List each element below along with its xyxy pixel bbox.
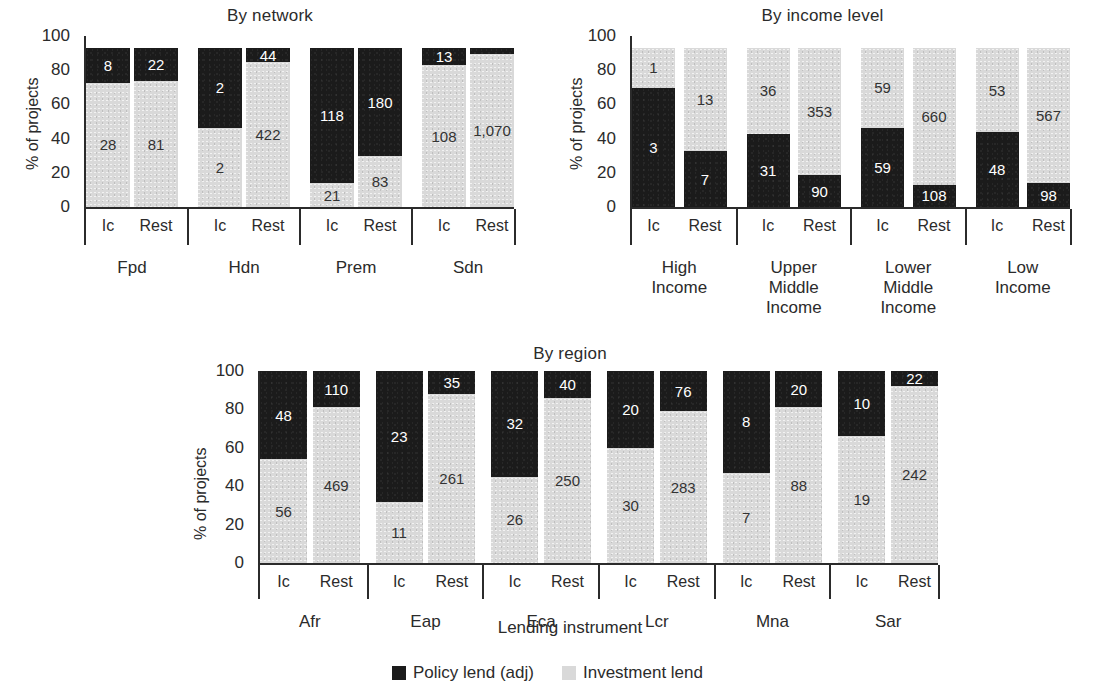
segment-investment-lend[interactable]: 28 — [86, 83, 130, 207]
stacked-bar[interactable]: 2281 — [134, 48, 178, 207]
segment-policy-lend[interactable]: 22 — [891, 371, 938, 386]
segment-policy-lend[interactable]: 32 — [491, 371, 538, 477]
stacked-bar[interactable]: 5348 — [976, 48, 1019, 207]
bar-value-label: 36 — [760, 83, 777, 98]
segment-policy-lend[interactable]: 10 — [838, 371, 885, 436]
x-group-label: Fpd — [86, 258, 178, 278]
segment-policy-lend[interactable]: 108 — [913, 185, 956, 207]
stacked-bar[interactable]: 11821 — [310, 48, 354, 207]
legend-item[interactable]: Investment lend — [562, 663, 703, 683]
segment-policy-lend[interactable]: 40 — [544, 371, 591, 398]
segment-investment-lend[interactable]: 250 — [544, 398, 591, 563]
stacked-bar[interactable]: 1,070 — [470, 48, 514, 207]
stacked-bar[interactable]: 660108 — [913, 48, 956, 207]
segment-policy-lend[interactable]: 98 — [1027, 183, 1070, 207]
segment-investment-lend[interactable]: 2 — [198, 128, 242, 208]
segment-investment-lend[interactable]: 469 — [313, 407, 360, 563]
group-separator — [829, 565, 831, 599]
x-group-label: Hdn — [198, 258, 290, 278]
segment-investment-lend[interactable]: 283 — [660, 411, 707, 563]
bars-container-by-region: 4856110469231135261322640250203076283872… — [260, 371, 938, 563]
stacked-bar[interactable]: 137 — [684, 48, 727, 207]
segment-policy-lend[interactable]: 35 — [428, 371, 475, 394]
stacked-bar[interactable]: 44422 — [246, 48, 290, 207]
segment-policy-lend[interactable]: 48 — [260, 371, 307, 459]
segment-investment-lend[interactable]: 242 — [891, 386, 938, 563]
segment-investment-lend[interactable]: 108 — [422, 65, 466, 207]
bar-value-label: 108 — [431, 129, 456, 144]
segment-investment-lend[interactable]: 261 — [428, 394, 475, 563]
segment-investment-lend[interactable]: 59 — [861, 48, 904, 128]
segment-investment-lend[interactable]: 1 — [632, 48, 675, 88]
segment-investment-lend[interactable]: 81 — [134, 81, 178, 207]
x-tick-label-ic: Ic — [422, 217, 466, 235]
segment-policy-lend[interactable]: 59 — [861, 128, 904, 208]
segment-investment-lend[interactable]: 83 — [358, 156, 402, 207]
segment-investment-lend[interactable]: 26 — [491, 477, 538, 563]
segment-policy-lend[interactable]: 44 — [246, 48, 290, 62]
stacked-bar[interactable]: 3226 — [491, 371, 538, 563]
stacked-bar[interactable]: 35390 — [798, 48, 841, 207]
segment-investment-lend[interactable]: 88 — [775, 407, 822, 563]
stacked-bar[interactable]: 2088 — [775, 371, 822, 563]
segment-investment-lend[interactable]: 19 — [838, 436, 885, 563]
stacked-bar[interactable]: 2311 — [376, 371, 423, 563]
stacked-bar[interactable]: 1019 — [838, 371, 885, 563]
stacked-bar[interactable]: 40250 — [544, 371, 591, 563]
segment-policy-lend[interactable]: 20 — [607, 371, 654, 448]
bar-value-label: 19 — [853, 492, 870, 507]
stacked-bar[interactable]: 5959 — [861, 48, 904, 207]
segment-investment-lend[interactable]: 567 — [1027, 48, 1070, 183]
stacked-bar[interactable]: 3631 — [747, 48, 790, 207]
stacked-bar[interactable]: 110469 — [313, 371, 360, 563]
segment-investment-lend[interactable]: 56 — [260, 459, 307, 563]
stacked-bar[interactable]: 2030 — [607, 371, 654, 563]
segment-policy-lend[interactable]: 2 — [198, 48, 242, 128]
stacked-bar[interactable]: 35261 — [428, 371, 475, 563]
segment-policy-lend[interactable]: 90 — [798, 175, 841, 207]
segment-policy-lend[interactable]: 23 — [376, 371, 423, 502]
segment-investment-lend[interactable]: 30 — [607, 448, 654, 563]
stacked-bar[interactable]: 22242 — [891, 371, 938, 563]
segment-policy-lend[interactable]: 118 — [310, 48, 354, 183]
segment-policy-lend[interactable]: 48 — [976, 132, 1019, 207]
segment-policy-lend[interactable]: 8 — [86, 48, 130, 83]
y-axis-label-by-income-level: % of projects — [568, 78, 586, 170]
segment-investment-lend[interactable]: 36 — [747, 48, 790, 134]
segment-investment-lend[interactable]: 13 — [684, 48, 727, 151]
bar-value-label: 44 — [260, 48, 277, 63]
stacked-bar[interactable]: 87 — [723, 371, 770, 563]
segment-policy-lend[interactable]: 180 — [358, 48, 402, 156]
segment-policy-lend[interactable]: 8 — [723, 371, 770, 473]
segment-investment-lend[interactable]: 660 — [913, 48, 956, 185]
segment-investment-lend[interactable]: 53 — [976, 48, 1019, 132]
y-tick-label: 100 — [42, 26, 70, 46]
segment-investment-lend[interactable]: 21 — [310, 183, 354, 207]
segment-policy-lend[interactable]: 3 — [632, 88, 675, 207]
segment-policy-lend[interactable]: 76 — [660, 371, 707, 411]
stacked-bar[interactable]: 13108 — [422, 48, 466, 207]
segment-investment-lend[interactable]: 1,070 — [470, 54, 514, 207]
plot-area-by-network: % of projects 100806040200 8282281224442… — [0, 0, 540, 320]
segment-investment-lend[interactable]: 422 — [246, 62, 290, 207]
segment-investment-lend[interactable]: 353 — [798, 48, 841, 175]
segment-policy-lend[interactable]: 22 — [134, 48, 178, 81]
bar-value-label: 353 — [807, 104, 832, 119]
segment-policy-lend[interactable]: 20 — [775, 371, 822, 407]
stacked-bar[interactable]: 18083 — [358, 48, 402, 207]
segment-policy-lend[interactable]: 31 — [747, 134, 790, 207]
stacked-bar[interactable]: 76283 — [660, 371, 707, 563]
stacked-bar[interactable]: 56798 — [1027, 48, 1070, 207]
stacked-bar[interactable]: 4856 — [260, 371, 307, 563]
segment-policy-lend[interactable]: 13 — [422, 48, 466, 65]
segment-policy-lend[interactable]: 110 — [313, 371, 360, 407]
stacked-bar[interactable]: 13 — [632, 48, 675, 207]
segment-policy-lend[interactable]: 7 — [684, 151, 727, 207]
legend-item[interactable]: Policy lend (adj) — [392, 663, 534, 683]
stacked-bar[interactable]: 22 — [198, 48, 242, 207]
chart-panel-by-region: By region % of projects 100806040200 485… — [170, 340, 970, 640]
segment-investment-lend[interactable]: 11 — [376, 502, 423, 563]
y-tick-label: 80 — [597, 60, 616, 80]
segment-investment-lend[interactable]: 7 — [723, 473, 770, 563]
stacked-bar[interactable]: 828 — [86, 48, 130, 207]
